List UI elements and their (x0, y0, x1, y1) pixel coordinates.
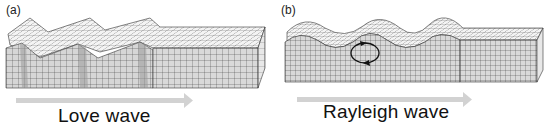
caption-rayleigh-wave: Rayleigh wave (323, 101, 449, 123)
caption-love-wave: Love wave (58, 105, 151, 127)
panel-rayleigh-wave: (b) Rayleigh wav (275, 0, 551, 129)
panel-love-wave: (a) Love wave (0, 0, 275, 129)
